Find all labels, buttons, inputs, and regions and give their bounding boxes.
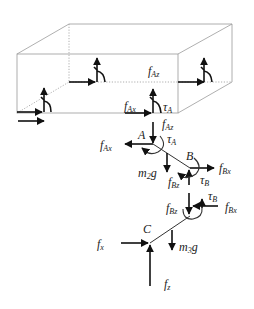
label-link-fAx: fAx	[100, 138, 112, 153]
label-link-tauB: τB	[200, 173, 209, 188]
link-BC	[150, 216, 190, 243]
box-top-face	[17, 24, 232, 54]
torque-curl-icon	[183, 208, 202, 219]
box-hidden-diagonal	[17, 82, 69, 113]
label-box-tauA: τA	[163, 100, 172, 115]
box-right-face	[178, 24, 232, 113]
label-joint-A: A	[137, 128, 146, 142]
label-link-fAz: fAz	[162, 117, 174, 132]
attach-front-left	[17, 88, 51, 121]
label-foot-fx: fx	[97, 237, 104, 252]
label-lower-fBx: fBx	[225, 200, 237, 215]
free-body-diagram: fAz fAx τA fAz fAx τA A B m2g fBx fBz τB	[0, 0, 254, 309]
label-link-fBx: fBx	[219, 161, 231, 176]
attach-back-right	[178, 58, 212, 82]
label-lower-m3g: m3g	[179, 240, 198, 255]
torque-curl-icon	[204, 71, 212, 82]
label-joint-B: B	[186, 149, 194, 163]
label-lower-fBz: fBz	[166, 201, 178, 216]
attach-back-left	[69, 58, 105, 82]
label-box-fAx: fAx	[124, 99, 136, 114]
link-AB	[153, 144, 190, 168]
label-joint-C: C	[143, 222, 152, 236]
label-box-fAz: fAz	[148, 64, 160, 79]
label-lower-tauB: τB	[208, 189, 217, 204]
label-link-m2g: m2g	[138, 166, 157, 181]
torque-curl-icon	[44, 101, 51, 112]
label-link-tauA: τA	[167, 132, 176, 147]
label-foot-fz: fz	[164, 277, 171, 292]
label-link-fBz: fBz	[168, 175, 180, 190]
torque-curl-icon	[97, 71, 105, 82]
torque-curl-icon	[153, 101, 161, 113]
